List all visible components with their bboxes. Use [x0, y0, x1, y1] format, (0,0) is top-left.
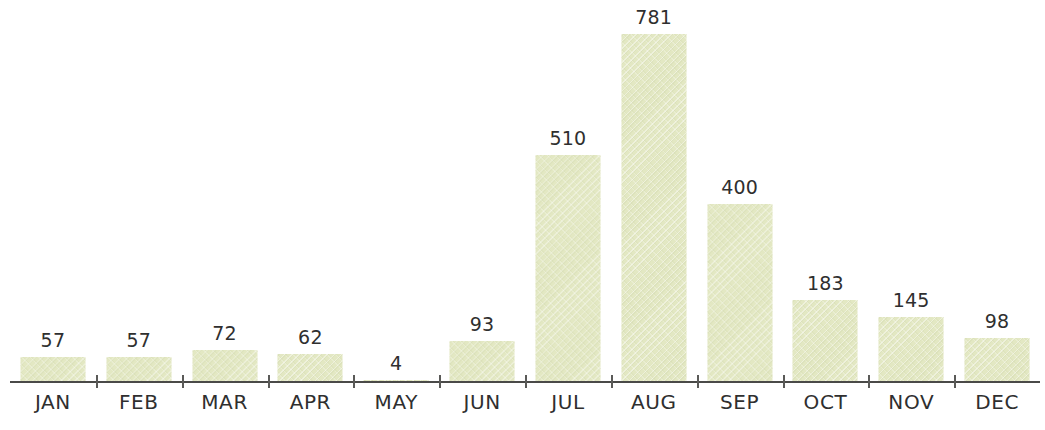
bar-group-mar: 72 [182, 0, 268, 382]
x-tick-label-aug: AUG [631, 390, 677, 414]
bar-value-label-jun: 93 [470, 313, 495, 335]
bar-group-jan: 57 [10, 0, 96, 382]
x-tick-label-may: MAY [375, 390, 418, 414]
x-axis-tick [611, 375, 613, 388]
bar-group-may: 4 [353, 0, 439, 382]
bar-value-label-jan: 57 [41, 329, 66, 351]
x-axis-tick [954, 375, 956, 388]
bar-value-label-dec: 98 [985, 310, 1010, 332]
x-axis-tick [868, 375, 870, 388]
bar-group-jun: 93 [439, 0, 525, 382]
x-axis-tick [96, 375, 98, 388]
bar-jan[interactable] [20, 357, 85, 382]
bar-value-label-may: 4 [390, 352, 402, 374]
x-tick-label-apr: APR [290, 390, 331, 414]
plot-area: 5757726249351078140018314598 [10, 0, 1040, 382]
x-axis-tick [353, 375, 355, 388]
x-axis-tick [783, 375, 785, 388]
bar-group-oct: 183 [783, 0, 869, 382]
x-axis-tick [268, 375, 270, 388]
x-tick-label-feb: FEB [119, 390, 159, 414]
bar-group-nov: 145 [868, 0, 954, 382]
bar-value-label-sep: 400 [721, 176, 758, 198]
x-tick-label-mar: MAR [201, 390, 248, 414]
x-tick-label-dec: DEC [975, 390, 1019, 414]
x-tick-label-jan: JAN [35, 390, 71, 414]
bar-jun[interactable] [450, 341, 515, 382]
bar-chart: 5757726249351078140018314598 JANFEBMARAP… [0, 0, 1045, 430]
bar-group-feb: 57 [96, 0, 182, 382]
bar-value-label-nov: 145 [893, 289, 930, 311]
bar-nov[interactable] [879, 317, 944, 382]
bar-value-label-oct: 183 [807, 272, 844, 294]
bar-group-aug: 781 [611, 0, 697, 382]
bar-group-sep: 400 [697, 0, 783, 382]
bar-value-label-mar: 72 [212, 322, 237, 344]
bar-value-label-apr: 62 [298, 326, 323, 348]
x-axis-tick [182, 375, 184, 388]
bar-aug[interactable] [621, 34, 686, 382]
x-axis-tick [697, 375, 699, 388]
x-tick-label-oct: OCT [804, 390, 848, 414]
bar-group-dec: 98 [954, 0, 1040, 382]
bar-value-label-feb: 57 [126, 329, 151, 351]
bar-group-apr: 62 [268, 0, 354, 382]
x-axis-tick [439, 375, 441, 388]
x-tick-label-nov: NOV [888, 390, 934, 414]
bar-mar[interactable] [192, 350, 257, 382]
x-tick-label-sep: SEP [720, 390, 759, 414]
bar-value-label-aug: 781 [635, 6, 672, 28]
x-tick-label-jul: JUL [551, 390, 584, 414]
bar-group-jul: 510 [525, 0, 611, 382]
x-axis-category-labels: JANFEBMARAPRMAYJUNJULAUGSEPOCTNOVDEC [10, 390, 1040, 430]
bar-oct[interactable] [793, 300, 858, 382]
bar-feb[interactable] [106, 357, 171, 382]
bar-apr[interactable] [278, 354, 343, 382]
x-axis-tick [525, 375, 527, 388]
bar-dec[interactable] [965, 338, 1030, 382]
bar-value-label-jul: 510 [549, 127, 586, 149]
bar-sep[interactable] [707, 204, 772, 382]
bar-jul[interactable] [535, 155, 600, 382]
x-tick-label-jun: JUN [463, 390, 500, 414]
